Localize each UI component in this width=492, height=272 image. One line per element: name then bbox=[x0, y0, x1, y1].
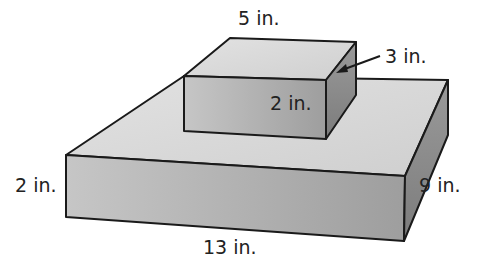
bottom-box-height-label: 2 in. bbox=[15, 174, 57, 196]
top-box-length-label: 5 in. bbox=[238, 7, 280, 29]
top-box-height-label: 2 in. bbox=[270, 92, 312, 114]
bottom-box-length-label: 13 in. bbox=[203, 236, 257, 258]
top-box bbox=[184, 38, 356, 139]
stacked-boxes-diagram: 5 in. 3 in. 2 in. 2 in. 9 in. 13 in. bbox=[0, 0, 492, 272]
bottom-box-width-label: 9 in. bbox=[419, 174, 461, 196]
top-box-width-label: 3 in. bbox=[385, 45, 427, 67]
